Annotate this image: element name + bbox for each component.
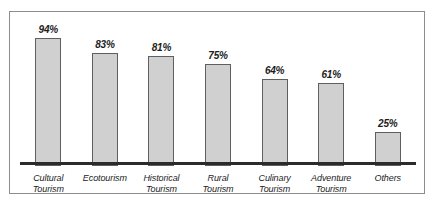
bar-rect[interactable] <box>262 79 288 166</box>
bar-rect[interactable] <box>148 56 174 166</box>
bar-value-label: 94% <box>39 25 58 35</box>
bar-rect[interactable] <box>92 53 118 166</box>
bar-value-label: 61% <box>321 70 340 80</box>
bar-group[interactable]: 61% <box>303 16 360 166</box>
x-axis-label: Others <box>359 168 416 195</box>
bar-value-label: 81% <box>152 43 171 53</box>
bar-value-label: 83% <box>95 40 114 50</box>
bar-chart-figure: 94% 83% 81% 75% 64% <box>0 0 437 204</box>
bar-value-label: 75% <box>208 51 227 61</box>
bar-rect[interactable] <box>35 38 61 166</box>
bar-group[interactable]: 75% <box>190 16 247 166</box>
x-axis-label: Adventure Tourism <box>303 168 360 195</box>
bar-value-label: 25% <box>378 119 397 129</box>
bar-group[interactable]: 64% <box>246 16 303 166</box>
x-axis-label: Culinary Tourism <box>246 168 303 195</box>
bars-container: 94% 83% 81% 75% 64% <box>20 16 416 166</box>
bar-value-label: 64% <box>265 66 284 76</box>
x-axis-line <box>20 162 416 165</box>
bar-group[interactable]: 94% <box>20 16 77 166</box>
chart-frame-border: 94% 83% 81% 75% 64% <box>9 11 425 194</box>
plot-area: 94% 83% 81% 75% 64% <box>20 16 416 165</box>
bar-rect[interactable] <box>375 132 401 166</box>
bar-group[interactable]: 81% <box>133 16 190 166</box>
bar-group[interactable]: 25% <box>359 16 416 166</box>
x-axis-label: Cultural Tourism <box>20 168 77 195</box>
bar-rect[interactable] <box>205 64 231 166</box>
x-axis-label: Ecotourism <box>77 168 134 195</box>
bar-group[interactable]: 83% <box>77 16 134 166</box>
x-axis-label: Rural Tourism <box>190 168 247 195</box>
x-axis-labels: Cultural Tourism Ecotourism Historical T… <box>20 168 416 195</box>
bar-rect[interactable] <box>318 83 344 166</box>
x-axis-label: Historical Tourism <box>133 168 190 195</box>
